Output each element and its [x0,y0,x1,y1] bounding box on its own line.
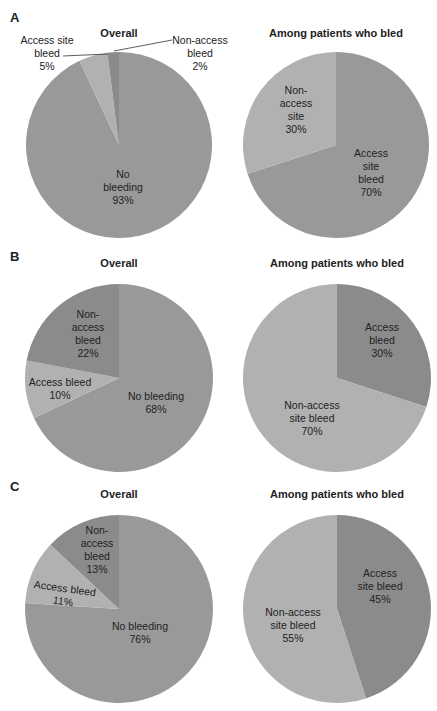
label-a-overall-access: Access site bleed 5% [20,34,73,73]
label-c-bled-access: Access site bleed 45% [358,567,403,606]
label-a-bled-nonaccess: Non- access site 30% [280,84,313,136]
label-b-bled-nonaccess: Non-access site bleed 70% [284,399,339,438]
label-a-overall-nonaccess: Non-access bleed 2% [172,34,227,73]
label-a-overall-none: No bleeding 93% [103,168,143,207]
label-c-bled-nonaccess: Non-access site bleed 55% [265,606,320,645]
label-b-overall-none: No bleeding 68% [128,390,184,416]
label-b-bled-access: Access bleed 30% [365,321,399,360]
label-c-overall-nonaccess: Non- access bleed 13% [81,524,114,576]
label-c-overall-none: No bleeding 76% [112,620,168,646]
label-b-overall-access: Access bleed 10% [29,376,91,402]
label-a-bled-access: Access site bleed 70% [354,147,388,199]
label-b-overall-nonaccess: Non- access bleed 22% [72,308,105,360]
